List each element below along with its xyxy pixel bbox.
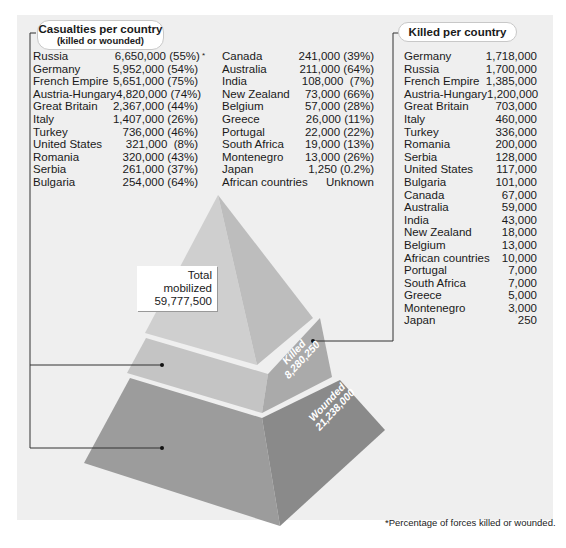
table-row: Serbia128,000 — [404, 151, 537, 164]
killed-header: Killed per country — [398, 22, 517, 42]
casualties-header: Casualties per country (killed or wounde… — [37, 20, 164, 50]
table-row: Turkey336,000 — [404, 126, 537, 139]
table-row: Russia6,650,000 (55%)* — [33, 50, 205, 63]
table-row: Portugal7,000 — [404, 264, 537, 277]
table-row: Japan1,250 (0.2%) — [222, 163, 374, 176]
killed-left-connector-dot — [160, 363, 164, 367]
table-row: Montenegro13,000 (26%) — [222, 151, 374, 164]
table-row: Belgium57,000 (28%) — [222, 100, 374, 113]
table-row: Greece26,000 (11%) — [222, 113, 374, 126]
table-row: Austria-Hungary4,820,000 (74%) — [33, 88, 198, 101]
table-row: New Zealand73,000 (66%) — [222, 88, 374, 101]
table-row: New Zealand18,000 — [404, 226, 537, 239]
table-row: Turkey736,000 (46%) — [33, 126, 198, 139]
table-row: United States117,000 — [404, 163, 537, 176]
table-row: South Africa19,000 (13%) — [222, 138, 374, 151]
table-row: United States321,000 (8%) — [33, 138, 198, 151]
table-row: Russia1,700,000 — [404, 63, 537, 76]
table-row: Bulgaria101,000 — [404, 176, 537, 189]
table-row: Great Britain2,367,000 (44%) — [33, 100, 198, 113]
casualties-column-1: Russia6,650,000 (55%)* Germany5,952,000 … — [33, 50, 205, 189]
table-row: French Empire1,385,000 — [404, 75, 537, 88]
table-row: Germany5,952,000 (54%) — [33, 63, 198, 76]
table-row: Greece5,000 — [404, 289, 537, 302]
total-mobilized-label: Total mobilized 59,777,500 — [137, 266, 217, 311]
table-row: Australia211,000 (64%) — [222, 63, 374, 76]
table-row: Montenegro3,000 — [404, 302, 537, 315]
table-row: Romania320,000 (43%) — [33, 151, 198, 164]
table-row: Australia59,000 — [404, 201, 537, 214]
table-row: Italy460,000 — [404, 113, 537, 126]
table-row: Great Britain703,000 — [404, 100, 537, 113]
table-row: Romania200,000 — [404, 138, 537, 151]
table-row: African countriesUnknown — [222, 176, 374, 189]
table-row: Japan250 — [404, 314, 537, 327]
casualties-subtitle: (killed or wounded) — [38, 35, 163, 47]
killed-title: Killed per country — [409, 26, 507, 38]
table-row: Canada67,000 — [404, 189, 537, 202]
table-row: Canada241,000 (39%) — [222, 50, 374, 63]
table-row: French Empire5,651,000 (75%) — [33, 75, 198, 88]
table-row: African countries10,000 — [404, 252, 537, 265]
table-row: India43,000 — [404, 214, 537, 227]
total-mobilized-title: Total mobilized — [142, 269, 212, 295]
table-row: Serbia261,000 (37%) — [33, 163, 198, 176]
table-row: Portugal22,000 (22%) — [222, 126, 374, 139]
casualties-column-2: Canada241,000 (39%) Australia211,000 (64… — [222, 50, 374, 189]
table-row: Austria-Hungary1,200,000 — [404, 88, 537, 101]
table-row: Italy1,407,000 (26%) — [33, 113, 198, 126]
wounded-connector-dot — [160, 446, 164, 450]
table-row: South Africa7,000 — [404, 277, 537, 290]
table-row: Belgium13,000 — [404, 239, 537, 252]
footnote: *Percentage of forces killed or wounded. — [385, 517, 556, 528]
table-row: Bulgaria254,000 (64%) — [33, 176, 198, 189]
killed-table: Germany1,718,000 Russia1,700,000 French … — [404, 50, 537, 327]
casualties-title: Casualties per country — [39, 23, 163, 35]
table-row: Germany1,718,000 — [404, 50, 537, 63]
total-mobilized-value: 59,777,500 — [142, 295, 212, 308]
footnote-mark: * — [202, 51, 205, 60]
table-row: India108,000 (7%) — [222, 75, 374, 88]
